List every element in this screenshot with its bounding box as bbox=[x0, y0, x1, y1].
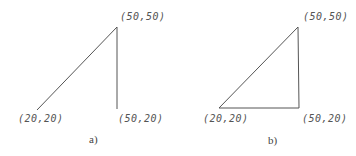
figure-a: (50,50) (20,20) (50,20) a) bbox=[18, 11, 166, 146]
diagram-canvas: (50,50) (20,20) (50,20) a) (50,50) (20,2… bbox=[0, 0, 356, 156]
figure-a-label-top: (50,50) bbox=[120, 11, 166, 22]
figure-b-caption: b) bbox=[268, 134, 278, 147]
figure-a-caption: a) bbox=[89, 133, 98, 146]
figure-a-label-bottom-left: (20,20) bbox=[18, 113, 64, 124]
figure-b-triangle bbox=[219, 27, 299, 108]
figure-b-label-bottom-left: (20,20) bbox=[203, 113, 249, 124]
figure-b-label-bottom-right: (50,20) bbox=[302, 113, 348, 124]
figure-b-label-top: (50,50) bbox=[303, 11, 349, 22]
figure-a-polyline bbox=[37, 27, 117, 110]
figure-a-label-bottom-right: (50,20) bbox=[118, 113, 164, 124]
figure-b: (50,50) (20,20) (50,20) b) bbox=[203, 11, 349, 147]
